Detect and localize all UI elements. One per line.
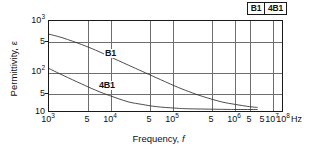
legend-item-b1: B1 (248, 3, 265, 14)
x-tick-1e4: 104 (103, 115, 117, 124)
x-tick-5e6: 5 (246, 115, 251, 124)
x-axis-title-symbol: f (182, 133, 185, 144)
y-tick-1e3: 103 (31, 16, 45, 25)
legend-item-4b1: 4B1 (265, 3, 286, 14)
legend: B1 4B1 (247, 2, 287, 15)
x-axis-title-text: Frequency, (132, 133, 179, 144)
x-tick-5e4: 5 (146, 115, 151, 124)
curves (49, 21, 282, 111)
x-axis-unit: Hz (291, 115, 302, 124)
x-tick-5e3: 5 (84, 115, 89, 124)
x-tick-1e3: 103 (41, 115, 55, 124)
x-tick-1e8: 108 (276, 115, 290, 124)
x-tick-1e5: 105 (165, 115, 179, 124)
curve-label-4b1: 4B1 (98, 81, 116, 90)
y-axis-title: Permittivity, ε (9, 19, 19, 119)
x-tick-5e5: 5 (208, 115, 213, 124)
x-axis-title: Frequency, f (0, 134, 317, 144)
y-tickmark-5e1 (45, 93, 48, 94)
plot-area (48, 20, 283, 112)
x-tick-1e6: 106 (227, 115, 241, 124)
y-axis-ticks: 103 5 102 5 10 (18, 0, 45, 156)
curve-label-b1: B1 (104, 49, 117, 58)
x-tick-5e7: 5 (259, 115, 264, 124)
curve-b1 (49, 34, 258, 107)
permittivity-vs-frequency-figure: B1 4B1 B1 4B1 103 5 102 5 10 Permittivit… (0, 0, 317, 156)
y-tickmark-5e2 (45, 41, 48, 42)
curve-4b1 (49, 68, 258, 109)
y-tick-1e2: 102 (31, 67, 45, 76)
